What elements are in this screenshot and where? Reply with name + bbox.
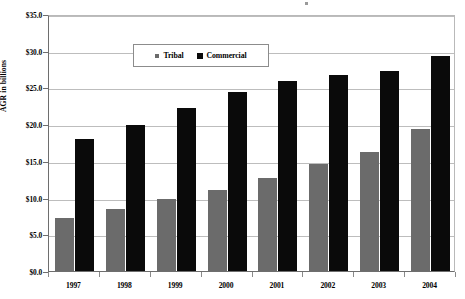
gridline [49,16,454,17]
x-axis-label-2003: 2003 [359,281,399,290]
bar-commercial-2001 [278,81,297,271]
x-axis-tick [252,272,253,277]
y-axis-tick [43,125,48,126]
x-axis-tick [455,272,456,277]
bar-commercial-1999 [177,108,196,271]
y-axis-tick [43,199,48,200]
bar-tribal-2001 [258,178,277,271]
y-axis-label: $35.0 [2,11,42,20]
x-axis-tick [99,272,100,277]
y-axis-tick [43,15,48,16]
y-axis-label: $5.0 [2,231,42,240]
bar-tribal-1999 [157,199,176,271]
y-axis-tick [43,235,48,236]
legend-item-tribal: Tribal [155,51,183,60]
x-axis-label-2001: 2001 [257,281,297,290]
bar-tribal-1998 [106,209,125,271]
y-axis-label: $10.0 [2,195,42,204]
y-axis-label: $30.0 [2,48,42,57]
bar-commercial-2004 [431,56,450,271]
y-axis-label: $20.0 [2,121,42,130]
x-axis-label-1999: 1999 [155,281,195,290]
x-axis-label-1998: 1998 [104,281,144,290]
bar-tribal-2003 [360,152,379,271]
y-axis-tick [43,162,48,163]
bar-commercial-2000 [228,92,247,271]
y-axis-tick [43,52,48,53]
bar-tribal-2004 [411,129,430,271]
x-axis-tick [150,272,151,277]
bar-tribal-1997 [55,218,74,271]
bar-chart: AGR in billions Tribal Commercial $0.0$5… [0,0,465,299]
y-axis-label: $15.0 [2,158,42,167]
legend-label-tribal: Tribal [163,51,183,60]
x-axis-tick [48,272,49,277]
title-artifact [305,2,308,5]
x-axis-label-2004: 2004 [410,281,450,290]
x-axis-tick [201,272,202,277]
bar-tribal-2000 [208,190,227,271]
legend-swatch-commercial-icon [197,53,203,59]
legend-label-commercial: Commercial [207,51,247,60]
x-axis-tick [404,272,405,277]
bar-tribal-2002 [309,164,328,271]
bar-commercial-2003 [380,71,399,271]
y-axis-tick [43,88,48,89]
x-axis-tick [302,272,303,277]
bar-commercial-2002 [329,75,348,271]
x-axis-label-2000: 2000 [206,281,246,290]
x-axis-label-1997: 1997 [53,281,93,290]
chart-legend: Tribal Commercial [133,44,269,67]
y-axis-label: $25.0 [2,84,42,93]
y-axis-title: AGR in billions [0,12,8,112]
legend-swatch-tribal-icon [155,54,159,58]
bar-commercial-1998 [126,125,145,271]
bar-commercial-1997 [75,139,94,271]
x-axis-tick [353,272,354,277]
x-axis-label-2002: 2002 [308,281,348,290]
legend-item-commercial: Commercial [197,51,247,60]
y-axis-label: $0.0 [2,268,42,277]
